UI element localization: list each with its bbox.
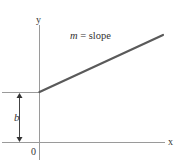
arrow-down-icon [17, 137, 23, 142]
origin-label: 0 [31, 146, 36, 157]
arrow-up-icon [17, 93, 23, 98]
intercept-label: b [14, 111, 20, 123]
y-axis-label: y [36, 14, 41, 25]
slope-intercept-diagram: y x 0 b m = slope [0, 0, 181, 168]
slope-annotation-text: = slope [78, 30, 112, 41]
x-axis-label: x [168, 136, 173, 147]
slope-annotation: m = slope [70, 30, 111, 41]
slope-line [40, 35, 164, 92]
diagram-svg: y x 0 b m = slope [0, 0, 181, 168]
